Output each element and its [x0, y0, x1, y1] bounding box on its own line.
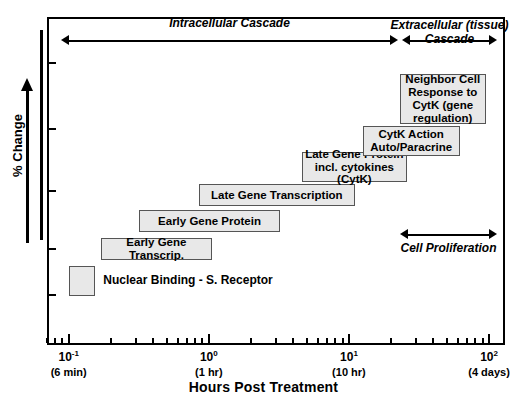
cell-proliferation-arrow-icon — [400, 229, 497, 240]
intracellular-cascade-arrow-icon — [61, 35, 398, 46]
x-tick-minor-7 — [326, 338, 328, 343]
x-tick-minor-3 — [275, 338, 277, 343]
x-tick-minor-0.07 — [46, 338, 48, 343]
extracellular-cascade-label: Extracellular (tissue) Cascade — [382, 19, 517, 47]
x-tick-major-100 — [488, 334, 490, 343]
x-tick-minor-40 — [432, 338, 434, 343]
x-tick-sublabel-3: (4 days) — [468, 366, 510, 378]
x-tick-minor-9 — [342, 338, 344, 343]
y-tick-4 — [47, 294, 56, 296]
x-tick-minor-0.30000000000000004 — [135, 338, 137, 343]
x-tick-minor-0.2 — [110, 338, 112, 343]
x-tick-minor-2 — [250, 338, 252, 343]
x-tick-minor-50 — [446, 338, 448, 343]
event-box-1[interactable]: Early Gene Transcrip. — [101, 238, 212, 260]
x-tick-minor-70 — [466, 338, 468, 343]
x-tick-minor-60 — [457, 338, 459, 343]
x-tick-minor-30 — [415, 338, 417, 343]
x-tick-minor-90 — [482, 338, 484, 343]
x-tick-minor-0.9 — [201, 338, 203, 343]
y-tick-0 — [47, 62, 56, 64]
x-tick-minor-0.5 — [166, 338, 168, 343]
y-axis-bar — [40, 30, 43, 240]
x-tick-minor-0.4 — [152, 338, 154, 343]
figure-root: % Change 10-1(6 min)100(1 hr)101(10 hr)1… — [0, 0, 527, 399]
y-tick-3 — [47, 248, 56, 250]
event-side-label-0: Nuclear Binding - S. Receptor — [103, 273, 272, 287]
x-tick-sublabel-1: (1 hr) — [195, 366, 223, 378]
y-tick-2 — [47, 190, 56, 192]
event-box-4[interactable]: Late Gene Protein incl. cytokines (CytK) — [302, 152, 407, 182]
event-box-3[interactable]: Late Gene Transcription — [199, 184, 355, 206]
x-tick-major-0.1 — [68, 334, 70, 343]
x-tick-sublabel-2: (10 hr) — [332, 366, 366, 378]
event-box-2[interactable]: Early Gene Protein — [139, 210, 279, 232]
x-tick-minor-4 — [292, 338, 294, 343]
event-box-0[interactable] — [69, 266, 96, 296]
x-tick-minor-0.8 — [194, 338, 196, 343]
x-tick-minor-0.08 — [54, 338, 56, 343]
x-tick-label-0: 10-1 — [58, 350, 78, 364]
x-tick-minor-6 — [317, 338, 319, 343]
x-tick-minor-80 — [474, 338, 476, 343]
y-tick-1 — [47, 128, 56, 130]
x-tick-label-1: 100 — [200, 350, 218, 364]
intracellular-cascade-label: Intracellular Cascade — [61, 17, 398, 31]
x-tick-label-3: 102 — [480, 350, 498, 364]
event-box-5[interactable]: CytK Action Auto/Paracrine — [363, 126, 460, 156]
x-tick-major-10 — [348, 334, 350, 343]
x-tick-major-1 — [208, 334, 210, 343]
y-axis-label: % Change — [10, 96, 25, 196]
x-tick-label-2: 101 — [340, 350, 358, 364]
x-tick-minor-0.09 — [61, 338, 63, 343]
x-tick-sublabel-0: (6 min) — [51, 366, 87, 378]
x-tick-minor-8 — [334, 338, 336, 343]
plot-area — [47, 17, 505, 345]
x-tick-minor-20 — [390, 338, 392, 343]
x-tick-minor-0.7000000000000001 — [186, 338, 188, 343]
event-box-6[interactable]: Neighbor Cell Response to CytK (gene reg… — [400, 74, 486, 124]
x-tick-minor-0.6000000000000001 — [177, 338, 179, 343]
x-axis-title: Hours Post Treatment — [0, 379, 527, 395]
cell-proliferation-label: Cell Proliferation — [400, 241, 497, 255]
x-tick-minor-5 — [306, 338, 308, 343]
